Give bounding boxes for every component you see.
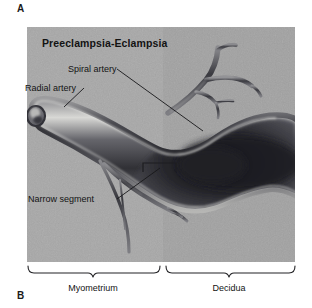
- region-braces: [28, 266, 295, 277]
- label-narrow-segment: Narrow segment: [28, 194, 95, 204]
- region-label-decidua: Decidua: [212, 283, 245, 293]
- region-label-myometrium: Myometrium: [68, 283, 118, 293]
- brace-myometrium: [28, 266, 160, 277]
- label-spiral-artery: Spiral artery: [68, 64, 117, 74]
- label-radial-artery: Radial artery: [25, 83, 77, 93]
- brace-decidua: [166, 266, 295, 277]
- figure-title: Preeclampsia-Eclampsia: [42, 37, 167, 49]
- figure-panel-a: Preeclampsia-Eclampsia Spiral artery Rad…: [0, 0, 312, 308]
